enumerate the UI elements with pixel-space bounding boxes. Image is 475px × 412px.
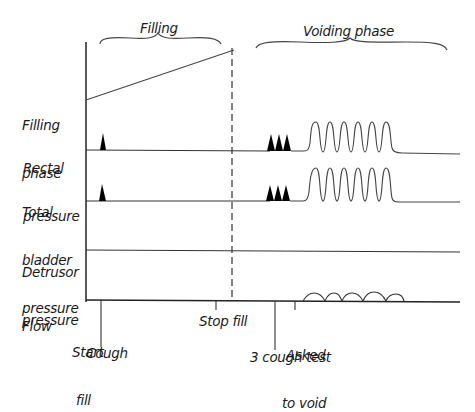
detrusor-pressure-trace	[86, 250, 460, 252]
cough-spike	[99, 184, 106, 201]
event-cough: Cough	[86, 345, 128, 361]
cough-test-spike	[266, 185, 274, 201]
event-stop-fill: Stop fill	[199, 313, 247, 329]
total-bladder-pressure-trace	[86, 168, 460, 202]
cough-test-spike	[282, 185, 290, 201]
label-line: Total	[22, 204, 79, 220]
cough-test-spike	[283, 134, 291, 151]
cough-test-spike	[275, 134, 283, 151]
rectal-pressure-trace	[86, 122, 460, 154]
event-start-fill: Start fill	[72, 312, 103, 412]
cough-test-spike	[267, 134, 275, 151]
event-three-cough-test: 3 cough test	[250, 349, 331, 365]
label-line: fill	[72, 392, 103, 408]
cough-spike	[100, 133, 106, 150]
label-line: Flow	[22, 318, 52, 334]
label-line: to void	[282, 395, 326, 411]
channel-label-flow: Flow	[22, 286, 52, 350]
filling-phase-trace	[86, 50, 234, 100]
flow-trace	[86, 292, 460, 302]
voiding-brace	[256, 38, 447, 50]
label-line: Detrusor	[22, 264, 79, 280]
filling-phase-header: Filling	[140, 20, 178, 36]
cough-test-spike	[274, 185, 282, 201]
voiding-phase-header: Voiding phase	[303, 23, 394, 39]
